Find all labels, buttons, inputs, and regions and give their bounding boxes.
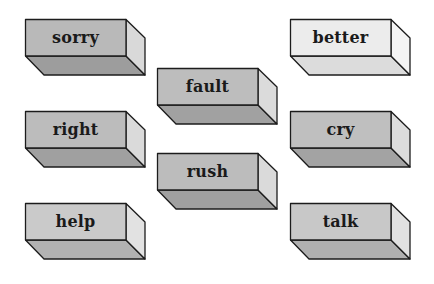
word-block-sorry[interactable]: sorry	[25, 19, 146, 76]
block-bottom-face	[158, 190, 278, 209]
block-label-better: better	[290, 19, 391, 56]
block-bottom-face	[26, 240, 146, 259]
block-label-rush: rush	[157, 153, 258, 190]
word-block-fault[interactable]: fault	[157, 68, 278, 125]
block-label-talk: talk	[290, 203, 391, 240]
block-bottom-face	[158, 105, 278, 124]
block-bottom-face	[291, 148, 411, 167]
block-label-sorry: sorry	[25, 19, 126, 56]
block-bottom-face	[26, 56, 146, 75]
block-bottom-face	[291, 240, 411, 259]
word-block-cry[interactable]: cry	[290, 111, 411, 168]
word-block-diagram: sorry right help fault rush better cry t…	[0, 0, 434, 284]
block-bottom-face	[26, 148, 146, 167]
word-block-talk[interactable]: talk	[290, 203, 411, 260]
word-block-better[interactable]: better	[290, 19, 411, 76]
block-label-cry: cry	[290, 111, 391, 148]
block-label-fault: fault	[157, 68, 258, 105]
word-block-rush[interactable]: rush	[157, 153, 278, 210]
block-bottom-face	[291, 56, 411, 75]
block-label-help: help	[25, 203, 126, 240]
block-label-right: right	[25, 111, 126, 148]
word-block-help[interactable]: help	[25, 203, 146, 260]
word-block-right[interactable]: right	[25, 111, 146, 168]
